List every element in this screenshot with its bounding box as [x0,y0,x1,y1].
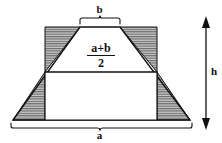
height-arrow-head-down [202,118,210,130]
bottom-base-label: a [0,130,199,141]
diagram-canvas [0,0,222,143]
midsegment-formula: a+b 2 [71,42,131,69]
height-arrow-head-up [202,16,210,28]
midsegment-denominator: 2 [71,56,131,69]
height-label: h [211,66,217,77]
inner-rectangle [45,72,157,120]
height-arrow [202,16,210,130]
trapezoid-area-diagram: b a h a+b 2 [0,0,222,143]
top-base-label: b [0,4,199,15]
midsegment-numerator: a+b [71,42,131,55]
top-brace [80,16,120,24]
